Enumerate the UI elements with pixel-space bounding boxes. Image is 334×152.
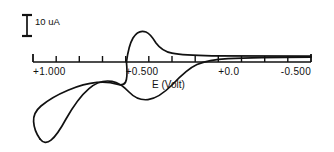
x-axis-tick-label-1000: +1.000 bbox=[33, 66, 66, 77]
cyclic-voltammogram-figure: 10 uA +1.000 +0.500 +0.0 -0.500 E (Volt) bbox=[0, 0, 334, 152]
x-axis-tick-label-00: +0.0 bbox=[218, 66, 239, 77]
current-scale-bar: 10 uA bbox=[22, 15, 60, 36]
reverse-scan-trace bbox=[40, 57, 311, 142]
x-axis-tick-label-minus0500: -0.500 bbox=[281, 66, 311, 77]
scale-bar-label: 10 uA bbox=[35, 16, 60, 27]
x-axis-tick-label-0500: +0.500 bbox=[126, 66, 159, 77]
